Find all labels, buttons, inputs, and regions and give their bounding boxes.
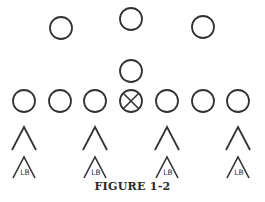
back-circle-icon xyxy=(120,8,142,30)
linebacker-triangle-icon: LB xyxy=(84,157,106,178)
lineman-circle-icon xyxy=(192,90,214,112)
lineman-circle-icon xyxy=(227,90,249,112)
figure-caption: FIGURE 1-2 xyxy=(0,180,265,193)
lineman-circle-icon xyxy=(13,90,35,112)
linebackers: LBLBLBLB xyxy=(13,157,249,178)
defensive-lineman-chevron-icon xyxy=(155,127,179,150)
center-x-circle-icon xyxy=(120,90,142,112)
back-circle-icon xyxy=(192,16,214,38)
formation-diagram: LBLBLBLB xyxy=(0,0,265,202)
defensive-lineman-chevron-icon xyxy=(226,127,250,150)
linebacker-triangle-icon: LB xyxy=(156,157,178,178)
lineman-circle-icon xyxy=(156,90,178,112)
linebacker-label: LB xyxy=(20,168,29,177)
offensive-line xyxy=(13,90,249,112)
quarterback-circle-icon xyxy=(120,60,142,82)
linebacker-triangle-icon: LB xyxy=(13,157,35,178)
linebacker-label: LB xyxy=(91,168,100,177)
defensive-lineman-chevron-icon xyxy=(12,127,36,150)
defensive-lineman-chevron-icon xyxy=(83,127,107,150)
offensive-backfield xyxy=(50,8,214,82)
lineman-circle-icon xyxy=(49,90,71,112)
linebacker-label: LB xyxy=(234,168,243,177)
back-circle-icon xyxy=(50,17,72,39)
linebacker-triangle-icon: LB xyxy=(227,157,249,178)
defensive-line xyxy=(12,127,250,150)
linebacker-label: LB xyxy=(163,168,172,177)
lineman-circle-icon xyxy=(84,90,106,112)
